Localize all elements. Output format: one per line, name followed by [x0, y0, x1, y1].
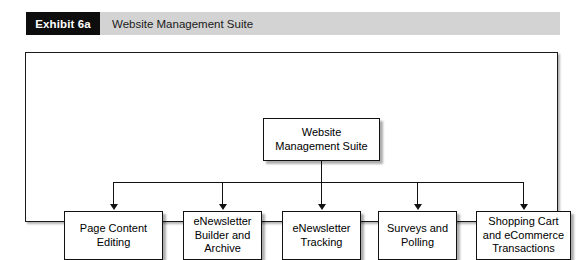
node-3-line2: Tracking	[301, 236, 343, 248]
exhibit-number-tag: Exhibit 6a	[26, 12, 100, 35]
exhibit-title: Website Management Suite	[100, 12, 560, 35]
node-1-text: Page ContentEditing	[80, 222, 147, 249]
node-4-text: Surveys andPolling	[387, 222, 448, 249]
node-5-line1: Shopping Cart	[488, 215, 558, 227]
connector-leg-3	[321, 182, 322, 204]
arrowhead-3-icon	[318, 204, 326, 210]
node-3-line1: eNewsletter	[292, 222, 350, 234]
arrowhead-2-icon	[219, 204, 227, 210]
arrowhead-4-icon	[414, 204, 422, 210]
node-5-line3: Transactions	[492, 242, 555, 254]
node-3-text: eNewsletterTracking	[292, 222, 350, 249]
node-4-line1: Surveys and	[387, 222, 448, 234]
node-2-line2: Builder and	[195, 229, 251, 241]
connector-leg-1	[113, 182, 114, 204]
node-page-content-editing: Page ContentEditing	[64, 211, 163, 260]
arrowhead-5-icon	[520, 204, 528, 210]
node-5-text: Shopping Cartand eCommerceTransactions	[483, 215, 564, 256]
connector-horizontal-bus	[113, 182, 523, 183]
node-website-management-suite: WebsiteManagement Suite	[263, 118, 380, 161]
node-root-text: WebsiteManagement Suite	[275, 126, 367, 153]
connector-leg-4	[417, 182, 418, 204]
node-2-line3: Archive	[204, 242, 241, 254]
node-root-line1: Website	[302, 126, 342, 138]
node-2-text: eNewsletterBuilder andArchive	[193, 215, 251, 256]
exhibit-figure: Exhibit 6a Website Management Suite Webs…	[0, 0, 585, 239]
node-enewsletter-builder-and-archive: eNewsletterBuilder andArchive	[183, 211, 262, 260]
node-2-line1: eNewsletter	[193, 215, 251, 227]
connector-leg-5	[523, 182, 524, 204]
node-5-line2: and eCommerce	[483, 229, 564, 241]
arrowhead-1-icon	[110, 204, 118, 210]
connector-root-stub	[321, 161, 322, 182]
diagram-panel: WebsiteManagement Suite Page ContentEdit…	[25, 52, 558, 222]
node-root-line2: Management Suite	[275, 140, 367, 152]
node-1-line2: Editing	[97, 236, 131, 248]
node-4-line2: Polling	[401, 236, 434, 248]
exhibit-header: Exhibit 6a Website Management Suite	[26, 12, 560, 35]
node-enewsletter-tracking: eNewsletterTracking	[282, 211, 361, 260]
node-shopping-cart-and-ecommerce-transactions: Shopping Cartand eCommerceTransactions	[476, 211, 571, 260]
node-1-line1: Page Content	[80, 222, 147, 234]
node-surveys-and-polling: Surveys andPolling	[378, 211, 457, 260]
connector-leg-2	[222, 182, 223, 204]
